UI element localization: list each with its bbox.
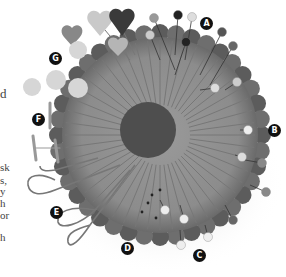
pin-head xyxy=(204,233,213,242)
pin-head xyxy=(188,13,197,22)
callout-f: F xyxy=(32,113,45,126)
text-fragment: h xyxy=(0,232,6,243)
text-fragment: y xyxy=(0,186,6,197)
callout-b: B xyxy=(268,124,281,137)
text-fragment: d xyxy=(0,88,7,99)
pin-head xyxy=(229,216,238,225)
pin-head xyxy=(218,28,227,37)
text-fragment: h xyxy=(0,198,6,209)
heart-pin-light xyxy=(87,11,112,36)
pin-head xyxy=(262,188,271,197)
text-fragment: or xyxy=(0,210,9,221)
pincushion-illustration xyxy=(0,0,286,277)
pin-head xyxy=(177,241,186,250)
callout-g: G xyxy=(49,52,62,65)
callout-c: C xyxy=(193,249,206,262)
callout-a: A xyxy=(200,17,213,30)
pin-head xyxy=(244,126,253,135)
pin-head xyxy=(174,11,183,20)
pin-head xyxy=(146,31,155,40)
cushion-center xyxy=(120,102,176,158)
pin-head xyxy=(161,206,170,215)
pin-head xyxy=(211,84,220,93)
callout-d: D xyxy=(121,242,134,255)
pin-head xyxy=(258,159,267,168)
pin-head xyxy=(229,42,238,51)
pin-head xyxy=(180,215,189,224)
callout-e: E xyxy=(50,206,63,219)
pin-head xyxy=(238,153,247,162)
pin-head xyxy=(182,38,191,47)
pin-head xyxy=(150,14,159,23)
pin-head xyxy=(233,78,242,87)
text-fragment: sk xyxy=(0,162,10,173)
